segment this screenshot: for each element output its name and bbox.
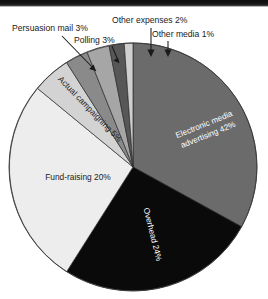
slice-label-fund-raising: Fund-raising 20%: [45, 172, 111, 182]
pie-chart-svg: Persuasion mail 3% Polling 3% Other expe…: [0, 0, 268, 299]
callout-label-other-expenses: Other expenses 2%: [112, 15, 188, 25]
callout-label-persuasion-mail: Persuasion mail 3%: [12, 23, 88, 33]
callout-label-polling: Polling 3%: [74, 35, 115, 45]
pie-chart-figure: Persuasion mail 3% Polling 3% Other expe…: [0, 0, 268, 299]
pie-slices: [9, 43, 257, 291]
callout-label-other-media: Other media 1%: [152, 29, 214, 39]
